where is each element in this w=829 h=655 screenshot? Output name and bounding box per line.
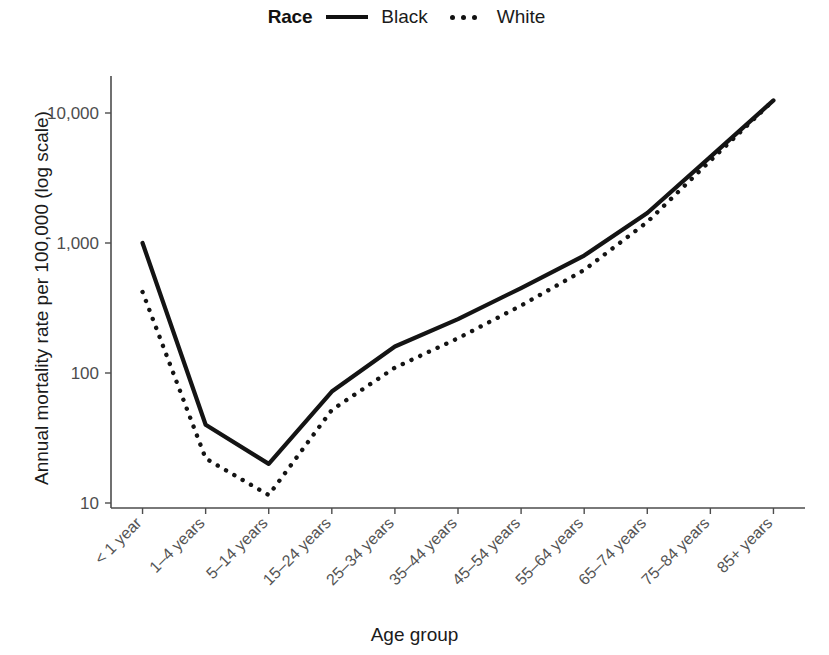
y-tick-label: 10 (80, 494, 99, 513)
x-tick-label: 75–84 years (638, 514, 712, 588)
series-line-black (143, 100, 774, 463)
x-tick-label: 5–14 years (203, 514, 271, 582)
y-axis-ticks: 101001,00010,000 (47, 104, 111, 513)
chart-figure: Race Black White Annual mortality rate p… (0, 0, 829, 655)
x-axis-ticks (143, 508, 774, 514)
series-line-white (143, 100, 774, 495)
x-axis-tick-labels: < 1 year1–4 years5–14 years15–24 years25… (91, 514, 775, 589)
data-series-layer (143, 100, 774, 495)
y-tick-label: 100 (71, 364, 99, 383)
y-tick-label: 10,000 (47, 104, 99, 123)
y-tick-label: 1,000 (56, 234, 99, 253)
plot-area: 101001,00010,000 < 1 year1–4 years5–14 y… (0, 0, 829, 655)
x-tick-label: < 1 year (91, 514, 145, 568)
x-tick-label: 1–4 years (146, 514, 208, 576)
x-tick-label: 85+ years (714, 514, 776, 576)
